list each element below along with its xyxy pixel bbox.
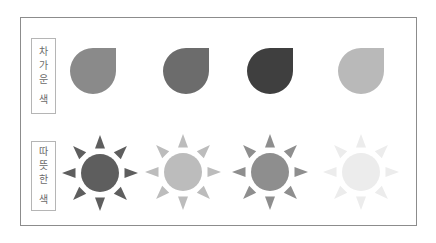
drop-icon <box>338 48 384 101</box>
label-char: 차 <box>39 45 48 59</box>
drop-icon <box>70 48 116 101</box>
label-char: 뜻 <box>39 159 48 173</box>
drop-icon <box>247 48 293 101</box>
sun-icon <box>321 132 401 212</box>
label-char: 색 <box>39 93 48 107</box>
cold-colors-label: 차 가 운 색 <box>31 38 56 114</box>
warm-colors-label: 따 뜻 한 색 <box>31 141 56 211</box>
label-char: 운 <box>39 73 48 87</box>
label-char: 따 <box>39 145 48 159</box>
sun-icon <box>60 133 140 213</box>
label-char: 한 <box>39 173 48 187</box>
sun-icon <box>143 132 223 212</box>
label-char: 색 <box>39 193 48 207</box>
drop-icon <box>163 48 209 101</box>
label-char: 가 <box>39 59 48 73</box>
sun-icon <box>230 132 310 212</box>
